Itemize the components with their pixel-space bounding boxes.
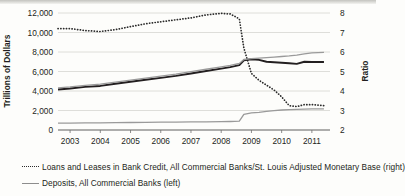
solid-line-icon: [22, 178, 42, 188]
y-left-tick: 12,000: [28, 8, 54, 18]
x-axis-tick: 2008: [212, 136, 231, 146]
y-axis-left-title: Trillions of Dollars: [2, 34, 12, 107]
x-axis-tick: 2011: [303, 136, 321, 146]
y-left-tick: 4,000: [32, 86, 53, 96]
x-axis-tick: 2004: [91, 136, 110, 146]
legend-label-deposits: Deposits, All Commercial Banks (left): [42, 178, 180, 188]
y-left-tick: 10,000: [28, 28, 54, 38]
y-right-tick: 7: [340, 28, 345, 38]
y-right-tick: 2: [340, 125, 345, 135]
legend-item-deposits: Deposits, All Commercial Banks (left): [22, 177, 180, 189]
x-axis-ticks: 200320042005200620072008200920102011: [61, 130, 321, 146]
y-right-tick: 8: [340, 8, 345, 18]
dotted-line-icon: [22, 162, 42, 172]
y-left-tick: 8,000: [32, 47, 53, 57]
x-axis-tick: 2006: [152, 136, 171, 146]
y-right-tick: 4: [340, 86, 345, 96]
chart-legend: Loans and Leases in Bank Credit, All Com…: [0, 156, 376, 196]
x-axis-tick: 2007: [182, 136, 201, 146]
x-axis-tick: 2009: [242, 136, 261, 146]
legend-item-ratio: Loans and Leases in Bank Credit, All Com…: [22, 161, 405, 173]
y-left-tick: 2,000: [32, 106, 53, 116]
x-axis-tick: 2003: [61, 136, 80, 146]
series-loans-to-monetary-base-ratio: [58, 13, 324, 106]
series-monetary-base-line: [58, 109, 324, 123]
y-right-tick: 6: [340, 47, 345, 57]
y-axis-right-ticks: 8765432: [340, 8, 345, 135]
y-left-tick: 6,000: [32, 67, 53, 77]
x-axis-tick: 2010: [272, 136, 291, 146]
y-right-tick: 5: [340, 67, 345, 77]
y-left-tick: 0: [48, 125, 53, 135]
y-axis-right-title: Ratio: [360, 61, 370, 82]
y-axis-left-ticks: 12,00010,0008,0006,0004,0002,0000: [28, 8, 54, 135]
legend-label-ratio: Loans and Leases in Bank Credit, All Com…: [42, 162, 405, 172]
series-bank-credit-line: [58, 52, 324, 87]
x-axis-tick: 2005: [121, 136, 140, 146]
y-right-tick: 3: [340, 106, 345, 116]
series-lines: [58, 13, 324, 123]
chart-canvas: 12,00010,0008,0006,0004,0002,0000 876543…: [0, 0, 376, 156]
